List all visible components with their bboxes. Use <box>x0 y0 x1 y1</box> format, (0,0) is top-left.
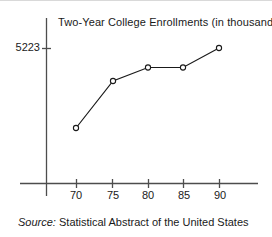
y-axis-tick-label: 5223 <box>8 41 40 53</box>
x-axis-tick-label: 85 <box>172 189 196 201</box>
x-axis-tick-label: 90 <box>208 189 232 201</box>
data-point-marker <box>73 125 78 130</box>
source-note: Source: Statistical Abstract of the Unit… <box>18 216 249 228</box>
data-point-marker <box>110 78 115 83</box>
source-label: Source: <box>18 216 56 228</box>
chart-plot-area: Two-Year College Enrollments (in thousan… <box>0 0 272 205</box>
data-point-marker <box>145 65 150 70</box>
line-chart-svg <box>0 0 272 205</box>
chart-title: Two-Year College Enrollments (in thousan… <box>58 16 272 28</box>
chart-figure: Two-Year College Enrollments (in thousan… <box>0 0 272 237</box>
data-point-marker <box>216 45 221 50</box>
source-text: Statistical Abstract of the United State… <box>59 216 249 228</box>
data-point-marker <box>180 65 185 70</box>
x-axis-tick-label: 70 <box>64 189 88 201</box>
x-axis-tick-label: 75 <box>101 189 125 201</box>
data-line-series-1 <box>76 48 219 128</box>
x-axis-tick-label: 80 <box>136 189 160 201</box>
